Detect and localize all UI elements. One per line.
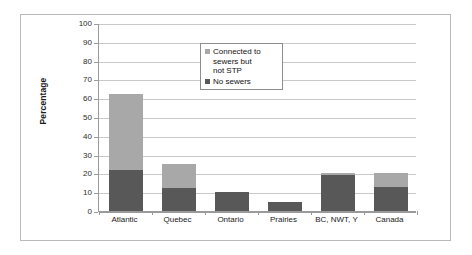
y-axis-tick-label: 0 <box>54 208 92 216</box>
legend-item: Connected to sewers but not STP <box>205 47 279 76</box>
y-axis-tick-label: 80 <box>54 58 92 66</box>
bar-stack <box>109 94 143 211</box>
bar-stack <box>268 202 302 211</box>
legend-item-label: No sewers <box>213 77 251 87</box>
bar-segment <box>374 173 408 186</box>
legend-swatch-icon <box>205 49 210 54</box>
chart-legend: Connected to sewers but not STP No sewer… <box>200 43 283 90</box>
bar-segment <box>321 175 355 211</box>
x-axis-tick-mark <box>99 211 100 215</box>
y-axis-tick-label: 30 <box>54 152 92 160</box>
y-axis-tick-label: 70 <box>54 76 92 84</box>
y-axis-title: Percentage <box>38 56 48 146</box>
chart-figure: Percentage 1009080706050403020100 Atlant… <box>0 0 472 255</box>
y-axis-tick-label: 100 <box>54 20 92 28</box>
legend-item-label: Connected to sewers but not STP <box>213 47 261 76</box>
y-axis-tick-mark <box>94 212 98 213</box>
bar-stack <box>321 173 355 211</box>
legend-item: No sewers <box>205 77 279 87</box>
bar-segment <box>162 164 196 188</box>
x-axis-tick-label: Canada <box>345 216 435 224</box>
bar-segment <box>162 188 196 211</box>
y-axis-tick-label: 40 <box>54 133 92 141</box>
bar-segment <box>268 202 302 211</box>
legend-swatch-icon <box>205 79 210 84</box>
y-axis-tick-label: 10 <box>54 189 92 197</box>
bar-stack <box>215 192 249 211</box>
y-axis-tick-label: 60 <box>54 95 92 103</box>
bar-segment <box>374 187 408 211</box>
bar-stack <box>162 164 196 211</box>
bar-segment <box>109 94 143 169</box>
bar-segment <box>321 173 355 175</box>
y-axis-tick-label: 50 <box>54 114 92 122</box>
x-axis-tick-mark <box>364 211 365 215</box>
bar-segment <box>215 192 249 211</box>
x-axis-tick-mark <box>258 211 259 215</box>
bar-stack <box>374 173 408 211</box>
y-axis-tick-label: 20 <box>54 170 92 178</box>
y-axis-tick-label: 90 <box>54 39 92 47</box>
x-axis-tick-mark <box>152 211 153 215</box>
x-axis-tick-mark <box>205 211 206 215</box>
x-axis-tick-mark <box>417 211 418 215</box>
bar-segment <box>109 170 143 211</box>
x-axis-tick-mark <box>311 211 312 215</box>
